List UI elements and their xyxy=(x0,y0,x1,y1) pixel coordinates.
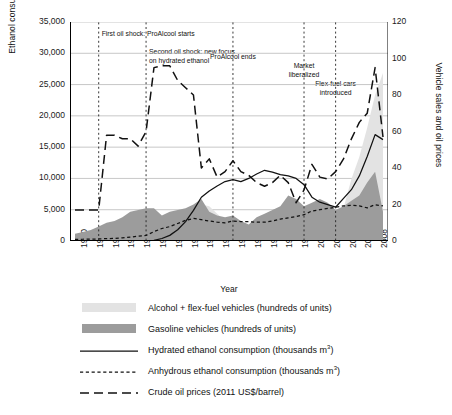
legend-label: Crude oil prices (2011 US$/barrel) xyxy=(148,387,284,397)
legend-key-line-dotted xyxy=(78,364,140,377)
chart-legend: Alcohol + flex-fuel vehicles (hundreds o… xyxy=(78,297,418,402)
plot-frame xyxy=(70,22,388,241)
legend-key-swatch-light xyxy=(78,301,140,314)
legend-line-icon xyxy=(78,344,140,357)
legend-item: Crude oil prices (2011 US$/barrel) xyxy=(78,381,418,402)
plot-area xyxy=(70,22,388,241)
legend-item: Anhydrous ethanol consumption (thousands… xyxy=(78,360,418,381)
legend-label: Anhydrous ethanol consumption (thousands… xyxy=(148,365,340,376)
legend-line-icon xyxy=(78,386,140,399)
legend-swatch-icon xyxy=(82,303,136,312)
legend-swatch-icon xyxy=(82,324,136,333)
legend-key-line-dashed xyxy=(78,385,140,398)
legend-label: Gasoline vehicles (hundreds of units) xyxy=(148,324,296,334)
legend-item: Alcohol + flex-fuel vehicles (hundreds o… xyxy=(78,297,418,318)
legend-key-line-solid xyxy=(78,343,140,356)
legend-item: Gasoline vehicles (hundreds of units) xyxy=(78,318,418,339)
ethanol-consumption-chart: Ethanol consumption Vehicle sales and oi… xyxy=(0,0,452,415)
legend-item: Hydrated ethanol consumption (thousands … xyxy=(78,339,418,360)
legend-label: Alcohol + flex-fuel vehicles (hundreds o… xyxy=(148,303,332,313)
legend-key-swatch-dark xyxy=(78,322,140,335)
legend-line-icon xyxy=(78,365,140,378)
legend-label: Hydrated ethanol consumption (thousands … xyxy=(148,344,333,355)
